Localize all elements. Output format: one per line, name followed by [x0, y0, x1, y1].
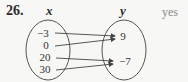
range-oval: [102, 20, 146, 80]
range-value: −7: [119, 55, 131, 67]
mapping-diagram: −3 0 20 30 9 −7: [0, 0, 188, 82]
domain-value: −3: [37, 27, 49, 39]
range-value: 9: [120, 30, 126, 42]
mapping-arrow: [56, 64, 113, 70]
domain-value: 30: [40, 63, 52, 75]
mapping-arrow: [56, 58, 113, 61]
mapping-arrow: [55, 39, 115, 46]
domain-value: 20: [40, 51, 52, 63]
domain-value: 0: [43, 39, 49, 51]
